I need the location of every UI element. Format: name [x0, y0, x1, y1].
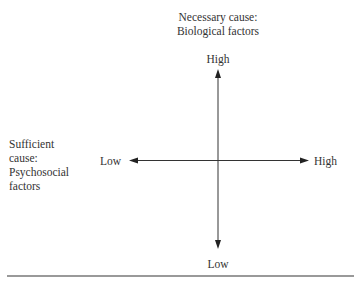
axes-graphic [0, 0, 354, 283]
arrow-up-icon [215, 69, 221, 78]
arrow-right-icon [300, 158, 309, 164]
arrow-down-icon [215, 240, 221, 249]
arrow-left-icon [129, 158, 138, 164]
